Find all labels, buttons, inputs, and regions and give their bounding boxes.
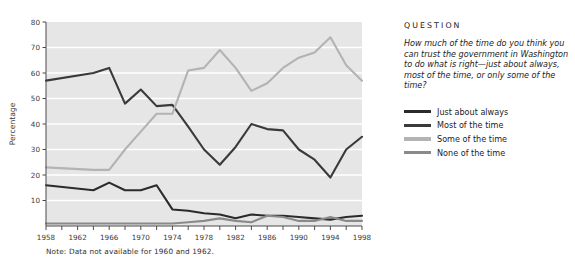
legend-label: Some of the time (437, 135, 507, 143)
y-tick-label: 50 (31, 94, 41, 103)
legend-swatch-icon (404, 110, 431, 113)
legend-swatch-icon (404, 137, 431, 140)
y-tick-label: 10 (31, 196, 41, 205)
y-axis-ticks: 1020304050607080 (31, 18, 46, 206)
question-heading: QUESTION (404, 21, 462, 30)
legend-item-0: Just about always (404, 105, 575, 119)
x-tick-label: 1958 (37, 233, 56, 242)
x-tick-label: 1978 (195, 233, 214, 242)
side-panel: QUESTION How much of the time do you thi… (404, 0, 575, 269)
x-axis-ticks: 1958196219661970197419781982198619901994… (37, 226, 372, 242)
x-tick-label: 1962 (68, 233, 86, 242)
x-tick-label: 1966 (100, 233, 119, 242)
x-tick-label: 1982 (226, 233, 244, 242)
chart-legend: Just about alwaysMost of the timeSome of… (404, 105, 575, 159)
y-tick-label: 80 (31, 18, 41, 27)
legend-item-2: Some of the time (404, 132, 575, 146)
x-tick-label: 1974 (163, 233, 182, 242)
y-tick-label: 20 (31, 171, 41, 180)
y-tick-label: 70 (31, 43, 41, 52)
x-tick-label: 1998 (353, 233, 372, 242)
x-tick-label: 1970 (132, 233, 151, 242)
chart-page: 1020304050607080 19581962196619701974197… (0, 0, 575, 269)
x-tick-label: 1986 (258, 233, 277, 242)
legend-item-3: None of the time (404, 146, 575, 160)
legend-label: Just about always (437, 108, 508, 116)
y-axis-title: Percentage (8, 102, 17, 145)
question-text: How much of the time do you think you ca… (404, 38, 572, 91)
chart-area: 1020304050607080 19581962196619701974197… (0, 0, 375, 269)
y-tick-label: 40 (31, 120, 41, 129)
trust-in-government-line-chart: 1020304050607080 19581962196619701974197… (0, 0, 375, 269)
x-tick-label: 1994 (321, 233, 340, 242)
chart-note: Note: Data not available for 1960 and 19… (46, 247, 214, 256)
y-tick-label: 30 (31, 145, 41, 154)
legend-label: Most of the time (437, 121, 503, 129)
y-tick-label: 60 (31, 69, 41, 78)
y-axis-title-text: Percentage (8, 102, 17, 145)
legend-item-1: Most of the time (404, 119, 575, 133)
legend-label: None of the time (437, 149, 505, 157)
x-tick-label: 1990 (290, 233, 309, 242)
legend-swatch-icon (404, 151, 431, 154)
legend-swatch-icon (404, 124, 431, 127)
